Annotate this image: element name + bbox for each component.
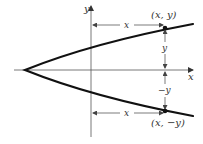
lower-y-measure: −y	[158, 72, 172, 109]
lower-point-label: (x, −y)	[151, 117, 185, 128]
lower-x-label: x	[124, 108, 129, 118]
lower-y-label: −y	[158, 85, 172, 95]
lower-point	[163, 109, 168, 114]
y-axis-label: y	[83, 3, 90, 14]
upper-x-label: x	[124, 20, 129, 30]
upper-x-measure: x	[93, 20, 163, 30]
upper-y-measure: y	[161, 30, 168, 68]
x-axis-label: x	[188, 71, 194, 82]
parabola-diagram: y x x x y −y (x, y) (x, −y)	[0, 0, 203, 144]
upper-point-label: (x, y)	[151, 9, 177, 20]
upper-y-label: y	[161, 43, 168, 53]
upper-point	[163, 26, 168, 31]
